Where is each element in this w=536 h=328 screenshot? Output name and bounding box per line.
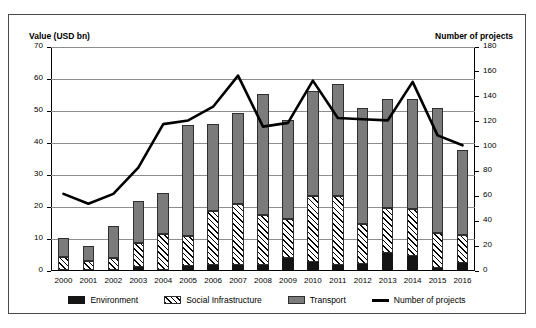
right-axis-tick bbox=[475, 146, 479, 147]
legend-label-environment: Environment bbox=[90, 295, 138, 305]
right-axis-tick-label: 60 bbox=[483, 190, 492, 199]
right-axis-tick bbox=[475, 71, 479, 72]
right-axis-title: Number of projects bbox=[435, 31, 513, 41]
x-axis-tick-label: 2014 bbox=[400, 276, 425, 285]
plot-area: 010203040506070 020406080100120140160180… bbox=[51, 47, 475, 271]
right-axis-tick-label: 100 bbox=[483, 141, 496, 150]
right-axis-tick bbox=[475, 171, 479, 172]
x-axis-tick-label: 2016 bbox=[450, 276, 475, 285]
right-axis-tick bbox=[475, 271, 479, 272]
left-axis-title: Value (USD bn) bbox=[29, 31, 90, 41]
right-axis-tick-label: 0 bbox=[483, 265, 487, 274]
right-axis-tick bbox=[475, 47, 479, 48]
x-axis-tick-label: 2013 bbox=[375, 276, 400, 285]
right-axis-tick bbox=[475, 221, 479, 222]
left-axis-tick-label: 40 bbox=[19, 137, 43, 146]
x-axis-tick-label: 2012 bbox=[350, 276, 375, 285]
left-axis-tick-label: 60 bbox=[19, 73, 43, 82]
right-axis-tick-label: 20 bbox=[483, 240, 492, 249]
left-axis-tick-label: 30 bbox=[19, 169, 43, 178]
x-axis-tick-label: 2006 bbox=[201, 276, 226, 285]
chart-legend: Environment Social Infrastructure Transp… bbox=[9, 295, 525, 305]
right-axis-tick bbox=[475, 246, 479, 247]
right-axis-tick bbox=[475, 196, 479, 197]
number-of-projects-line bbox=[51, 47, 475, 271]
chart-frame: Value (USD bn) Number of projects 010203… bbox=[8, 14, 526, 314]
x-axis-tick-label: 2001 bbox=[76, 276, 101, 285]
x-axis-tick-label: 2002 bbox=[101, 276, 126, 285]
x-axis-tick-label: 2005 bbox=[176, 276, 201, 285]
chart-page: Value (USD bn) Number of projects 010203… bbox=[0, 0, 536, 328]
right-axis-tick-label: 160 bbox=[483, 66, 496, 75]
right-axis-tick bbox=[475, 121, 479, 122]
legend-item-transport: Transport bbox=[288, 295, 346, 305]
social-infrastructure-swatch-icon bbox=[164, 296, 181, 304]
right-axis-tick-label: 180 bbox=[483, 41, 496, 50]
x-axis-tick-label: 2000 bbox=[51, 276, 76, 285]
legend-label-transport: Transport bbox=[310, 295, 346, 305]
right-axis-tick-label: 120 bbox=[483, 116, 496, 125]
left-axis-tick-label: 0 bbox=[19, 265, 43, 274]
x-axis-tick-label: 2007 bbox=[226, 276, 251, 285]
x-axis-tick-label: 2003 bbox=[126, 276, 151, 285]
right-axis-tick-label: 40 bbox=[483, 215, 492, 224]
legend-item-number-of-projects: Number of projects bbox=[372, 295, 466, 305]
right-axis-tick-label: 80 bbox=[483, 165, 492, 174]
x-axis-tick-label: 2008 bbox=[251, 276, 276, 285]
legend-label-number-of-projects: Number of projects bbox=[394, 295, 466, 305]
legend-label-social-infrastructure: Social Infrastructure bbox=[186, 295, 262, 305]
right-axis-tick bbox=[475, 96, 479, 97]
line-swatch-icon bbox=[372, 299, 389, 302]
environment-swatch-icon bbox=[68, 296, 85, 304]
left-axis-tick-label: 10 bbox=[19, 233, 43, 242]
left-axis-tick-label: 50 bbox=[19, 105, 43, 114]
transport-swatch-icon bbox=[288, 296, 305, 304]
x-axis-tick-label: 2009 bbox=[275, 276, 300, 285]
x-axis-tick-label: 2011 bbox=[325, 276, 350, 285]
right-axis-tick-label: 140 bbox=[483, 91, 496, 100]
left-axis-tick-label: 70 bbox=[19, 41, 43, 50]
legend-item-environment: Environment bbox=[68, 295, 138, 305]
x-axis-tick-label: 2010 bbox=[300, 276, 325, 285]
x-axis-tick-label: 2015 bbox=[425, 276, 450, 285]
legend-item-social-infrastructure: Social Infrastructure bbox=[164, 295, 262, 305]
x-axis-tick-label: 2004 bbox=[151, 276, 176, 285]
left-axis-tick-label: 20 bbox=[19, 201, 43, 210]
